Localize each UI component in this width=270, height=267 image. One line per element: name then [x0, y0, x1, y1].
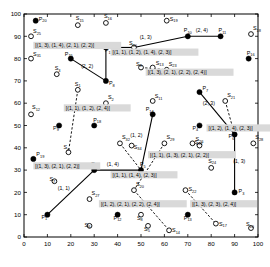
s-node[interactable]	[164, 18, 169, 23]
node-label: S28	[255, 134, 263, 142]
x-tick-label: 80	[208, 240, 215, 247]
graph-edge-solid	[47, 170, 94, 215]
s-node[interactable]	[249, 32, 254, 37]
s-node[interactable]	[29, 34, 34, 39]
y-tick-label: 40	[14, 144, 21, 151]
label-box-text: [(1, 3), (2, 1), (2, 2), (2, 4)]	[148, 69, 207, 75]
node-label: S24	[208, 158, 217, 166]
s-node[interactable]	[183, 188, 188, 193]
node-label: S12	[32, 104, 40, 112]
y-tick-label: 60	[14, 99, 21, 106]
s-node[interactable]	[132, 188, 137, 193]
node-label: P14	[146, 106, 155, 114]
node-label: S19	[170, 16, 178, 24]
node-label: P3	[239, 188, 245, 196]
label-box-text: [(1, 3), (1, 4), (2, 1), (2, 2)]	[35, 42, 94, 48]
edge-label: (1, 4)	[107, 161, 119, 167]
y-tick-label: 50	[14, 122, 21, 129]
x-tick-label: 90	[231, 240, 238, 247]
x-tick-label: 50	[138, 240, 145, 247]
y-tick-label: 80	[14, 55, 21, 62]
s-node[interactable]	[209, 165, 214, 170]
y-tick-label: 100	[11, 10, 22, 17]
x-tick-label: 100	[253, 240, 264, 247]
p-node[interactable]	[31, 156, 36, 161]
node-label: P15	[65, 51, 73, 59]
p-node[interactable]	[33, 18, 38, 23]
s-node[interactable]	[167, 228, 172, 233]
s-node[interactable]	[162, 141, 167, 146]
node-label: S14	[172, 227, 181, 235]
label-box-text: [(1, 1), (1, 3), (2, 1), (2, 2)]	[150, 152, 209, 158]
s-node[interactable]	[150, 99, 155, 104]
s-node[interactable]	[29, 112, 34, 117]
x-tick-label: 40	[114, 240, 121, 247]
label-box-text: [(1, 1), (1, 2), (1, 4), (2, 3)]	[113, 49, 172, 55]
label-box-text: [(1, 2), (2, 1), (2, 2), (2, 4)]	[101, 201, 160, 207]
label-box-text: [(1, 1), (1, 4), (2, 3)]	[113, 172, 158, 178]
x-tick-label: 60	[161, 240, 168, 247]
edge-label: (1, 3)	[140, 34, 152, 40]
s-node[interactable]	[29, 56, 34, 61]
p-node[interactable]	[103, 78, 108, 83]
edge-label: (1, 3)	[233, 158, 245, 164]
scatter-plot-figure: 0102030405060708090100010203040506070809…	[0, 0, 270, 267]
y-tick-label: 10	[14, 211, 21, 218]
node-label: S15	[76, 15, 84, 23]
p-node[interactable]	[197, 89, 202, 94]
x-tick-label: 20	[67, 240, 74, 247]
node-label: S18	[253, 25, 261, 33]
edge-label: (2, 2)	[81, 63, 93, 69]
node-label: S13	[156, 60, 164, 68]
y-tick-label: 70	[14, 77, 21, 84]
edge-label: (1, 1)	[58, 185, 70, 191]
p-node[interactable]	[232, 190, 237, 195]
s-node[interactable]	[118, 141, 123, 146]
node-label: S10	[246, 221, 255, 229]
node-label: S2	[108, 94, 114, 102]
node-label: S23	[169, 61, 177, 69]
s-node[interactable]	[75, 23, 80, 28]
node-label: S9	[136, 61, 142, 69]
node-label: S7	[49, 176, 55, 184]
s-node[interactable]	[213, 221, 218, 226]
label-box-text: [(1, 3), (2, 1), (2, 2)]	[35, 163, 80, 169]
label-box-text: [(1, 3), (2, 3), (2, 4)]	[192, 201, 237, 207]
x-tick-label: 30	[91, 240, 98, 247]
s-node[interactable]	[251, 141, 256, 146]
node-label: P19	[36, 151, 44, 159]
label-box-text: [(1, 1), (1, 2), (2, 4)]	[66, 105, 111, 111]
y-tick-label: 90	[14, 33, 21, 40]
graph-edge-dashed	[134, 190, 169, 230]
node-label: S34	[134, 144, 143, 152]
y-tick-label: 30	[14, 166, 21, 173]
node-label: S25	[33, 28, 41, 36]
node-label: P8	[109, 80, 115, 88]
node-label: S27	[92, 190, 100, 198]
y-tick-label: 20	[14, 189, 21, 196]
node-label: S20	[136, 181, 145, 189]
edge-label: (2, 3)	[203, 100, 215, 106]
y-tick-label: 0	[18, 233, 22, 240]
edge-label: (1, 2)	[130, 132, 142, 138]
node-label: S22	[188, 186, 196, 194]
node-label: S21	[227, 92, 235, 100]
node-label: S29	[166, 134, 174, 142]
node-label: P20	[39, 16, 48, 24]
x-tick-label: 10	[44, 240, 51, 247]
x-tick-label: 0	[22, 240, 26, 247]
label-box-text: [(1, 2), (1, 4), (2, 3)]	[209, 125, 254, 131]
node-label: S11	[155, 93, 163, 101]
x-tick-label: 70	[184, 240, 191, 247]
node-label: S1	[75, 81, 81, 89]
s-node[interactable]	[87, 197, 92, 202]
plot-canvas: 0102030405060708090100010203040506070809…	[0, 0, 270, 267]
node-label: S6	[85, 222, 91, 230]
node-label: S17	[219, 221, 227, 229]
node-label: S31	[33, 51, 41, 59]
edge-label: (2, 4)	[196, 27, 208, 33]
graph-edge-dashed	[68, 90, 77, 152]
s-node[interactable]	[223, 99, 228, 104]
s-node[interactable]	[104, 21, 109, 26]
node-label: S32	[122, 134, 130, 142]
